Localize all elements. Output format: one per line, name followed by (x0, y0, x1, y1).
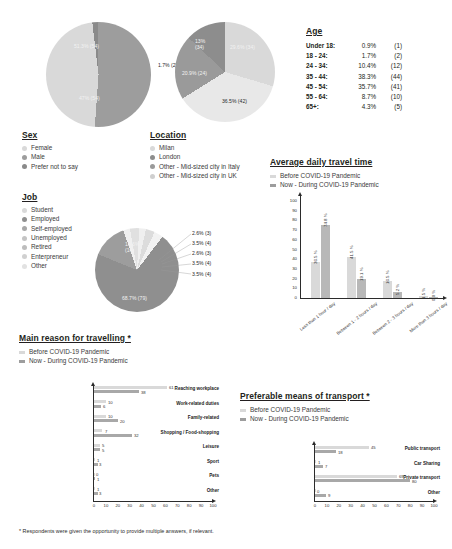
table-row: 18 - 24:1.7%(2) (306, 51, 426, 61)
bar-before-work-related (94, 400, 106, 403)
age-label: 45 - 54: (306, 82, 346, 92)
footnote: * Respondents were given the opportunity… (19, 528, 214, 534)
bar-before-leisure (94, 444, 100, 447)
location-legend: Milan London Other - Mid-sized city in I… (150, 145, 285, 180)
legend-swatch-icon (22, 155, 27, 160)
bar-value-label: 18 (338, 450, 343, 455)
legend-label: Employed (31, 216, 59, 223)
x-axis-tick: 70 (393, 503, 403, 508)
legend-item-london[interactable]: London (150, 154, 285, 161)
bar-category-label: Car Sharing (368, 461, 440, 466)
bar-before-other (94, 487, 95, 490)
legend-swatch-icon (150, 164, 155, 169)
bar-now-pets (94, 477, 95, 480)
survey-dashboard: 51.3% (54) 47% (54) 1.7% (2) Sex Female … (0, 0, 452, 549)
transport-bar-chart: Public transport 45 18 Car Sharing 1 7 P… (240, 441, 440, 521)
legend-item-retired[interactable]: Retired (22, 244, 92, 251)
bar-before-1-2h (347, 257, 356, 298)
bar-now-other (315, 494, 326, 497)
age-title: Age (306, 26, 426, 36)
location-pie-chart: 29.6% (34) 36.5% (42) 20.9% (24) 13% (34… (175, 22, 275, 122)
legend-item-enterpreneur[interactable]: Enterpreneur (22, 254, 92, 261)
legend-item-before[interactable]: Before COVID-19 Pandemic (270, 173, 450, 180)
legend-swatch-icon (19, 360, 25, 363)
legend-item-other[interactable]: Other (22, 263, 92, 270)
x-axis-tick: 20 (113, 503, 123, 508)
x-axis-line (93, 501, 214, 502)
legend-item-male[interactable]: Male (22, 154, 142, 161)
location-slice-label-london: 36.5% (42) (222, 98, 247, 104)
legend-item-now[interactable]: Now - During COVID-19 Pandemic (19, 358, 219, 365)
bar-value-label: 1.5 % (421, 288, 426, 299)
legend-item-student[interactable]: Student (22, 207, 92, 214)
bar-now-leisure (94, 448, 100, 451)
bar-value-label: 0.0 % (431, 290, 436, 301)
reason-bar-chart: Reaching workplace 61 38 Work-related du… (19, 382, 219, 517)
legend-swatch-icon (22, 245, 27, 250)
legend-label: Before COVID-19 Pandemic (250, 407, 330, 414)
transport-legend: Before COVID-19 Pandemic Now - During CO… (240, 407, 440, 423)
bar-now-car-sharing (315, 465, 323, 468)
legend-item-other-uk[interactable]: Other - Mid-sized city in UK (150, 173, 285, 180)
legend-swatch-icon (19, 351, 25, 354)
x-axis-tick: 30 (346, 503, 356, 508)
legend-item-before[interactable]: Before COVID-19 Pandemic (240, 407, 440, 414)
location-block: Location Milan London Other - Mid-sized … (150, 130, 285, 182)
legend-item-other-italy[interactable]: Other - Mid-sized city in Italy (150, 164, 285, 171)
sex-pie-chart: 51.3% (54) 47% (54) 1.7% (2) (46, 22, 151, 127)
x-axis-tick: 100 (208, 503, 218, 508)
y-axis-tick: 70 (287, 227, 297, 232)
bar-before-public-transport (315, 446, 369, 449)
y-axis-arrow-icon (298, 192, 302, 196)
legend-item-before[interactable]: Before COVID-19 Pandemic (19, 349, 219, 356)
x-axis-tick: 50 (149, 503, 159, 508)
age-label: 24 - 34: (306, 61, 346, 71)
legend-label: Male (31, 154, 45, 161)
legend-swatch-icon (270, 175, 276, 178)
reason-title: Main reason for travelling * (19, 333, 219, 343)
x-axis-tick: 100 (429, 503, 439, 508)
age-table: Under 18:0.9%(1) 18 - 24:1.7%(2) 24 - 34… (306, 41, 426, 112)
bar-category-label: Shopping / Food-shopping (147, 430, 219, 435)
bar-group: 36.5 % 74.8 % 41.5 % 19.1 % 16.5 % 5.2 %… (300, 200, 445, 298)
legend-item-now[interactable]: Now - During COVID-19 Pandemic (240, 416, 440, 423)
x-axis-arrow-icon (433, 499, 437, 503)
travel-time-title: Average daily travel time (270, 157, 450, 167)
legend-label: Now - During COVID-19 Pandemic (250, 416, 349, 423)
table-row: 65+:4.3%(5) (306, 102, 426, 112)
legend-item-unemployed[interactable]: Unemployed (22, 235, 92, 242)
legend-item-milan[interactable]: Milan (150, 145, 285, 152)
age-block: Age Under 18:0.9%(1) 18 - 24:1.7%(2) 24 … (306, 26, 426, 112)
legend-item-prefer-not-to-say[interactable]: Prefer not to say (22, 164, 142, 171)
age-pct: 35.7% (346, 82, 376, 92)
bar-now-public-transport (315, 450, 336, 453)
travel-time-legend: Before COVID-19 Pandemic Now - During CO… (270, 173, 450, 189)
age-label: 65+: (306, 102, 346, 112)
bar-category-label: Other (147, 488, 219, 493)
location-title: Location (150, 130, 285, 140)
legend-item-now[interactable]: Now - During COVID-19 Pandemic (270, 182, 450, 189)
age-pct: 4.3% (346, 102, 376, 112)
legend-item-female[interactable]: Female (22, 145, 142, 152)
bar-value-label: 9 (328, 493, 330, 498)
bar-value-label: 3 (99, 491, 101, 496)
bar-value-label: 16.5 % (385, 270, 390, 284)
sex-legend: Female Male Prefer not to say (22, 145, 142, 170)
x-axis-tick: 0 (310, 503, 320, 508)
y-axis-arrow-icon (312, 441, 316, 445)
travel-time-block: Average daily travel time Before COVID-1… (270, 157, 450, 192)
age-pct: 10.4% (346, 61, 376, 71)
bar-value-label: 19.1 % (359, 267, 364, 281)
age-pct: 1.7% (346, 51, 376, 61)
job-legend: Student Employed Self-employed Unemploye… (22, 207, 92, 270)
legend-item-employed[interactable]: Employed (22, 216, 92, 223)
bar-before-family-related (94, 415, 106, 418)
bar-before-shopping (94, 429, 102, 432)
age-count: (2) (376, 51, 402, 61)
y-axis-tick: 10 (287, 285, 297, 290)
legend-label: Now - During COVID-19 Pandemic (29, 358, 128, 365)
legend-item-self-employed[interactable]: Self-employed (22, 226, 92, 233)
bar-before-reaching-workplace (94, 386, 167, 389)
age-count: (41) (376, 82, 402, 92)
legend-swatch-icon (22, 164, 27, 169)
